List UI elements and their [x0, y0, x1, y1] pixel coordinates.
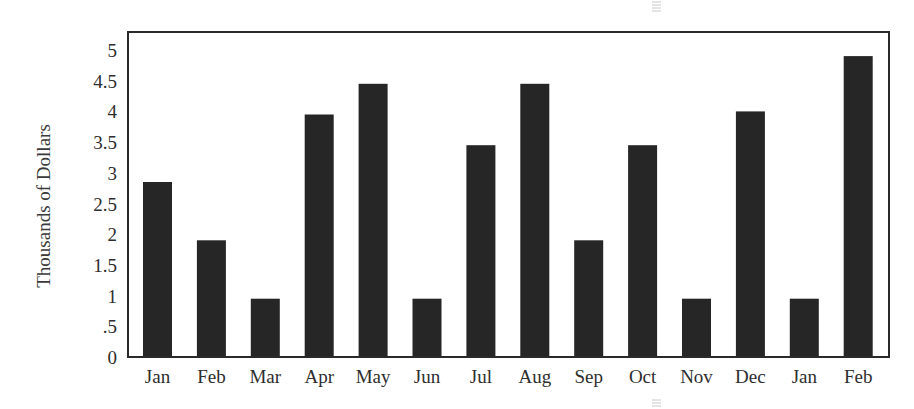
y-tick-label: 2: [108, 224, 118, 245]
bar-apr: [305, 115, 334, 358]
y-tick-label: 3.5: [93, 132, 117, 153]
y-axis-title: Thousands of Dollars: [33, 124, 54, 288]
bar-jan: [143, 182, 172, 357]
x-tick-label: Feb: [844, 366, 873, 387]
bar-feb: [197, 240, 226, 357]
x-tick-label: Apr: [304, 366, 334, 387]
x-axis-ticks: JanFebMarAprMayJunJulAugSepOctNovDecJanF…: [145, 366, 873, 387]
y-tick-label: 4: [108, 101, 118, 122]
y-tick-label: .5: [103, 316, 117, 337]
bar-feb: [844, 56, 873, 357]
bar-oct: [628, 145, 657, 357]
bar-jan: [790, 299, 819, 357]
x-tick-label: Jan: [145, 366, 171, 387]
x-tick-label: Jun: [414, 366, 441, 387]
bar-jul: [466, 145, 495, 357]
y-tick-label: 1: [108, 286, 118, 307]
y-tick-label: 3: [108, 163, 118, 184]
x-tick-label: Jan: [792, 366, 818, 387]
bar-mar: [251, 299, 280, 357]
y-tick-label: 1.5: [93, 255, 117, 276]
bar-chart: Thousands of Dollars 0.511.522.533.544.5…: [0, 0, 914, 409]
x-tick-label: Feb: [197, 366, 226, 387]
bar-jun: [413, 299, 442, 357]
y-tick-label: 2.5: [93, 194, 117, 215]
bar-may: [359, 84, 388, 357]
bar-nov: [682, 299, 711, 357]
x-tick-label: Jul: [470, 366, 492, 387]
y-tick-label: 4.5: [93, 71, 117, 92]
x-tick-label: Aug: [518, 366, 551, 387]
x-tick-label: Oct: [629, 366, 657, 387]
y-tick-label: 0: [108, 347, 118, 368]
x-tick-label: Mar: [249, 366, 281, 387]
x-tick-label: May: [356, 366, 391, 387]
x-tick-label: Dec: [735, 366, 766, 387]
y-axis-ticks: 0.511.522.533.544.55: [93, 40, 117, 368]
x-tick-label: Sep: [574, 366, 603, 387]
bar-dec: [736, 111, 765, 357]
bar-sep: [574, 240, 603, 357]
x-tick-label: Nov: [680, 366, 713, 387]
y-tick-label: 5: [108, 40, 118, 61]
plot-frame: [128, 32, 889, 357]
bars: [143, 56, 873, 357]
bar-aug: [520, 84, 549, 357]
